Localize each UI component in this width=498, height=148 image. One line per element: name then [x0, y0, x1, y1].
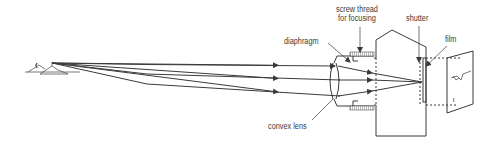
label-convex-lens: convex lens	[268, 122, 307, 131]
label-shutter: shutter	[406, 14, 428, 23]
convex-lens-icon	[330, 63, 339, 99]
lens-barrel	[334, 52, 374, 110]
shutter-film-assembly	[420, 58, 462, 105]
label-screw-thread-line2: for focusing	[336, 14, 378, 23]
label-leaders	[312, 26, 447, 120]
camera-diagram: screw thread for focusing diaphragm shut…	[0, 0, 498, 148]
film-strip	[423, 58, 426, 102]
screw-thread-top	[350, 52, 374, 56]
inverted-moon-icon	[453, 98, 454, 102]
label-diaphragm: diaphragm	[284, 37, 319, 46]
label-screw-thread: screw thread for focusing	[336, 5, 378, 23]
label-film: film	[445, 35, 456, 44]
light-rays	[52, 63, 422, 96]
film-image-panel	[447, 51, 473, 113]
screw-thread-bottom	[350, 106, 374, 110]
